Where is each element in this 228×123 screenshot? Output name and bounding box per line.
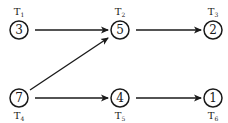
task-graph: T1 3 T2 5 T3 2 7 T4 4 T5 1 T6 [0,0,228,123]
node-t1: T1 3 [10,6,28,39]
node-t3: T3 2 [204,6,222,39]
node-value: 4 [116,91,124,105]
node-value: 5 [116,23,124,37]
node-value: 7 [15,91,23,105]
node-label-t5: T5 [115,110,126,122]
node-label-t4: T4 [14,110,25,122]
node-value: 3 [15,23,23,37]
node-value: 1 [209,91,217,105]
node-t2: T2 5 [111,6,129,39]
node-label-t1: T1 [14,6,25,18]
edge-t4-t2 [30,38,108,90]
node-label-t2: T2 [115,6,126,18]
node-t5: 4 T5 [111,89,129,122]
node-label-t6: T6 [208,110,219,122]
node-value: 2 [209,23,217,37]
node-t4: 7 T4 [10,89,28,122]
node-label-t3: T3 [208,6,219,18]
node-t6: 1 T6 [204,89,222,122]
